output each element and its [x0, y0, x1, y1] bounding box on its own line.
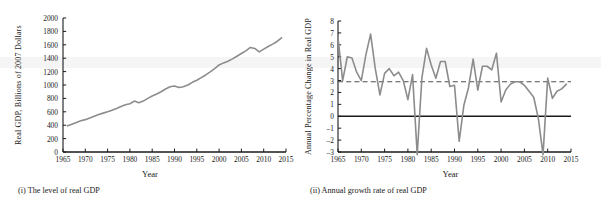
- x-tick-label: 1965: [331, 155, 346, 164]
- x-tick-label: 2000: [212, 155, 227, 164]
- x-tick-label: 1995: [470, 155, 485, 164]
- figure-real-gdp: Real GDP, Billions of 2007 Dollars 02004…: [0, 0, 601, 208]
- x-axis-label: Year: [300, 169, 601, 179]
- x-tick-label: 2010: [540, 155, 555, 164]
- x-tick-label: 1990: [447, 155, 462, 164]
- x-tick-label: 2005: [234, 155, 249, 164]
- x-tick-label: 1975: [100, 155, 115, 164]
- x-tick-label: 2010: [256, 155, 271, 164]
- panel-annual-growth-rate-of-real-gdp: Annual Percentage Change in Real GDP –3–…: [300, 0, 601, 208]
- panel-level-of-real-gdp: Real GDP, Billions of 2007 Dollars 02004…: [0, 0, 300, 208]
- series-line: [67, 38, 281, 126]
- x-axis-tick-labels: 1965197019751980198519901995200020052010…: [0, 155, 300, 167]
- x-tick-label: 1980: [401, 155, 416, 164]
- x-tick-label: 1970: [78, 155, 93, 164]
- x-axis-label: Year: [0, 169, 300, 179]
- x-axis-tick-labels: 1965197019751980198519901995200020052010…: [300, 155, 601, 167]
- x-tick-label: 2015: [279, 155, 294, 164]
- x-tick-label: 2005: [517, 155, 532, 164]
- series-line: [338, 34, 566, 155]
- x-tick-label: 1990: [167, 155, 182, 164]
- x-tick-label: 2000: [494, 155, 509, 164]
- x-tick-label: 1985: [424, 155, 439, 164]
- x-tick-label: 1995: [189, 155, 204, 164]
- x-tick-label: 1985: [145, 155, 160, 164]
- x-tick-label: 1970: [354, 155, 369, 164]
- x-tick-label: 1965: [56, 155, 71, 164]
- panel-caption: (ii) Annual growth rate of real GDP: [310, 186, 427, 195]
- x-tick-label: 2015: [564, 155, 579, 164]
- panel-caption: (i) The level of real GDP: [18, 186, 100, 195]
- x-tick-label: 1980: [123, 155, 138, 164]
- x-tick-label: 1975: [377, 155, 392, 164]
